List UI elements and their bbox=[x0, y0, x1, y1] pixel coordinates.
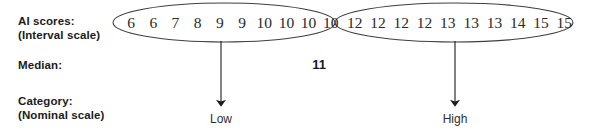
low-group-score-list: 6 6 7 8 9 9 10 10 10 10 bbox=[120, 14, 342, 32]
ai-scores-label-main: AI scores: bbox=[18, 15, 75, 27]
high-group-score-list: 12 12 12 12 13 13 13 14 15 15 bbox=[343, 14, 576, 32]
score-value: 13 bbox=[483, 14, 506, 32]
score-value: 12 bbox=[366, 14, 389, 32]
score-value: 14 bbox=[506, 14, 529, 32]
score-value: 8 bbox=[187, 14, 209, 32]
high-category-label: High bbox=[420, 112, 490, 126]
score-value: 7 bbox=[164, 14, 186, 32]
category-label-main: Category: bbox=[18, 95, 73, 107]
ai-scores-label-sub: (Interval scale) bbox=[18, 28, 100, 42]
score-value: 13 bbox=[436, 14, 459, 32]
score-value: 13 bbox=[459, 14, 482, 32]
score-value: 12 bbox=[390, 14, 413, 32]
median-label-main: Median: bbox=[18, 59, 62, 71]
figure-canvas: AI scores: (Interval scale) Median: Cate… bbox=[0, 0, 590, 138]
score-value: 12 bbox=[343, 14, 366, 32]
low-category-label: Low bbox=[186, 112, 256, 126]
score-value: 6 bbox=[120, 14, 142, 32]
median-row-label: Median: bbox=[18, 58, 62, 72]
ai-scores-row-label: AI scores: (Interval scale) bbox=[18, 14, 100, 42]
score-value: 15 bbox=[529, 14, 552, 32]
category-label-sub: (Nominal scale) bbox=[18, 108, 105, 122]
score-value: 9 bbox=[209, 14, 231, 32]
score-value: 10 bbox=[298, 14, 320, 32]
score-value: 15 bbox=[553, 14, 576, 32]
median-value: 11 bbox=[306, 57, 332, 72]
score-value: 9 bbox=[231, 14, 253, 32]
category-row-label: Category: (Nominal scale) bbox=[18, 94, 105, 122]
score-value: 12 bbox=[413, 14, 436, 32]
score-value: 10 bbox=[253, 14, 275, 32]
score-value: 10 bbox=[275, 14, 297, 32]
score-value: 10 bbox=[320, 14, 342, 32]
score-value: 6 bbox=[142, 14, 164, 32]
